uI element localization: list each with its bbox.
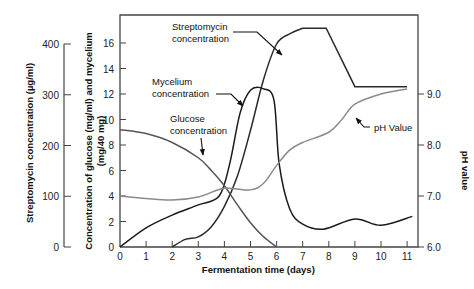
- x-tick-label: 2: [169, 251, 175, 262]
- annotation-streptomycin: Streptomycin: [172, 21, 227, 32]
- gm-tick-label: 12: [103, 89, 115, 100]
- streptomycin-axis-title: Streptomycin concentration (µg/ml): [24, 63, 35, 223]
- mycelium-concentration-line: [120, 87, 412, 247]
- x-tick-label: 11: [402, 251, 413, 262]
- ph-tick-label: 6.0: [427, 242, 441, 253]
- svg-text:concentration: concentration: [170, 125, 227, 136]
- x-tick-label: 9: [352, 251, 358, 262]
- annotations: StreptomycinconcentrationMyceliumconcent…: [152, 21, 412, 155]
- annotation-ph: pH Value: [374, 122, 412, 133]
- gm-tick-label: 0: [108, 242, 114, 253]
- gm-tick-label: 16: [103, 38, 115, 49]
- ph-tick-label: 8.0: [427, 140, 441, 151]
- strep-tick-label: 100: [42, 191, 59, 202]
- gm-tick-label: 8: [108, 140, 114, 151]
- annotation-mycelium: Mycelium: [152, 76, 192, 87]
- strep-tick-label: 400: [42, 39, 59, 50]
- ph-axis-title: pH value: [460, 151, 471, 191]
- ph-tick-label: 7.0: [427, 191, 441, 202]
- x-tick-label: 5: [248, 251, 254, 262]
- glucose-mycelium-axis-unit: (mg/40 mg): [95, 116, 106, 167]
- x-tick-label: 4: [222, 251, 228, 262]
- annotation-glucose: Glucose: [170, 113, 205, 124]
- strep-tick-label: 0: [53, 242, 59, 253]
- x-tick-label: 0: [117, 251, 123, 262]
- ph-value-line: [120, 89, 407, 200]
- x-tick-label: 10: [375, 251, 387, 262]
- svg-text:concentration: concentration: [172, 33, 229, 44]
- x-tick-label: 3: [196, 251, 202, 262]
- gm-tick-label: 6: [108, 166, 114, 177]
- strep-tick-label: 200: [42, 141, 59, 152]
- x-tick-label: 1: [143, 251, 149, 262]
- x-axis-title: Fermentation time (days): [202, 264, 315, 275]
- strep-tick-label: 300: [42, 90, 59, 101]
- series-lines: [120, 28, 412, 247]
- streptomycin-concentration-line: [172, 28, 407, 247]
- axes: 01234567891011Fermentation time (days)02…: [24, 32, 471, 275]
- fermentation-chart: 01234567891011Fermentation time (days)02…: [0, 0, 474, 289]
- x-tick-label: 6: [274, 251, 280, 262]
- glucose-mycelium-axis-title: Concentration of glucose (mg/ml) and myc…: [83, 32, 94, 249]
- gm-tick-label: 4: [108, 191, 114, 202]
- svg-text:concentration: concentration: [152, 88, 209, 99]
- x-tick-label: 8: [326, 251, 332, 262]
- ph-tick-label: 9.0: [427, 89, 441, 100]
- x-tick-label: 7: [300, 251, 306, 262]
- gm-tick-label: 2: [108, 217, 114, 228]
- gm-tick-label: 14: [103, 64, 115, 75]
